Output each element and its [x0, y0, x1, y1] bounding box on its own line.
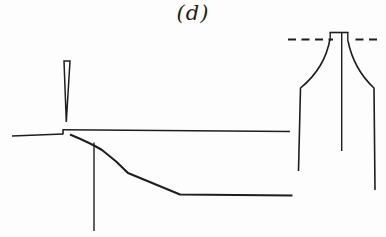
diagram-canvas	[0, 0, 386, 237]
right-diagram	[288, 33, 380, 191]
left-diagram	[12, 61, 293, 231]
left-surface-line	[12, 134, 63, 136]
upper-surface-line	[63, 130, 290, 132]
wedge-indenter	[64, 61, 70, 122]
tip-left-flank	[299, 39, 331, 171]
tip-right-flank	[348, 41, 375, 190]
figure-panel-d: (d)	[0, 0, 386, 237]
fracture-curve	[70, 135, 293, 196]
